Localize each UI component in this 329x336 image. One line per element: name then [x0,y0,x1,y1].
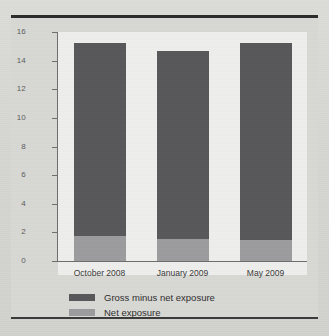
x-axis-line [57,261,307,262]
y-axis-tick [52,89,57,90]
scanned-page: 0246810121416 October 2008January 2009Ma… [0,0,329,336]
legend-swatch-icon [69,309,95,316]
y-axis-tick [52,118,57,119]
y-axis-tick [52,147,57,148]
y-axis-tick-label: 0 [2,257,26,265]
bar-segment-gross-minus-net-exposure [240,43,292,240]
chart-figure: 0246810121416 October 2008January 2009Ma… [11,18,318,317]
y-axis-tick-label: 6 [2,171,26,179]
y-axis-line [57,32,58,262]
bar-stack [74,43,126,261]
bar-stack [240,43,292,261]
legend-swatch-icon [69,294,95,301]
y-axis-tick [52,204,57,205]
y-axis-tick [52,232,57,233]
legend-item: Gross minus net exposure [69,290,299,304]
x-axis-tick-label: October 2008 [58,268,141,278]
y-axis-tick-label: 16 [2,28,26,36]
y-axis-tick-label: 8 [2,143,26,151]
legend-item-label: Net exposure [104,307,161,318]
x-axis-tick-label: January 2009 [141,268,224,278]
bar-stack [157,51,209,261]
y-axis-tick-label: 2 [2,228,26,236]
chart-legend: Gross minus net exposureNet exposure [69,290,299,320]
y-axis-tick [52,32,57,33]
bar-segment-gross-minus-net-exposure [157,51,209,239]
bar-segment-net-exposure [74,236,126,261]
bar-segment-net-exposure [240,240,292,261]
y-axis-tick [52,261,57,262]
bar-segment-gross-minus-net-exposure [74,43,126,236]
x-axis-tick-label: May 2009 [224,268,307,278]
bar-segment-net-exposure [157,239,209,261]
y-axis-tick [52,175,57,176]
page-rule-bottom [11,317,318,319]
y-axis-tick-label: 12 [2,85,26,93]
y-axis-tick-label: 10 [2,114,26,122]
y-axis-tick-label: 4 [2,200,26,208]
y-axis-tick-label: 14 [2,57,26,65]
y-axis-tick [52,61,57,62]
legend-item-label: Gross minus net exposure [104,292,215,303]
